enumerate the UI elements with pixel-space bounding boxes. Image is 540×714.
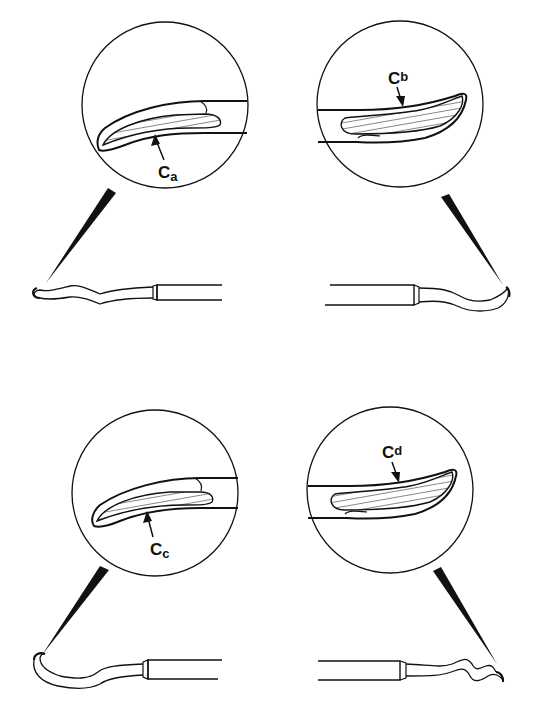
label-c-b: Cb [388,69,408,88]
magnified-blade-d [308,470,456,519]
pointer-arrow-b [396,87,405,107]
instrument-diagram: Ca Cb [0,0,540,714]
label-c-c: Cc [150,540,170,561]
label-c-d: Cd [382,443,402,462]
panel-a: Ca [33,22,248,304]
instrument-c [34,653,222,688]
instrument-a [33,285,222,304]
pointer-arrow-d [391,462,400,483]
pointer-arrow-c [143,511,153,537]
instrument-b [325,285,509,311]
leader-wedge-c [42,566,109,655]
leader-wedge-d [433,567,497,664]
instrument-d [318,659,503,682]
label-c-a: Ca [158,163,178,184]
magnified-blade-c [92,478,238,527]
leader-wedge-a [46,188,116,283]
panel-b: Cb [317,21,509,311]
magnified-blade-a [98,101,247,151]
panel-d: Cd [307,407,503,682]
leader-wedge-b [441,194,503,285]
panel-c: Cc [34,410,238,688]
magnified-blade-b [318,94,466,143]
